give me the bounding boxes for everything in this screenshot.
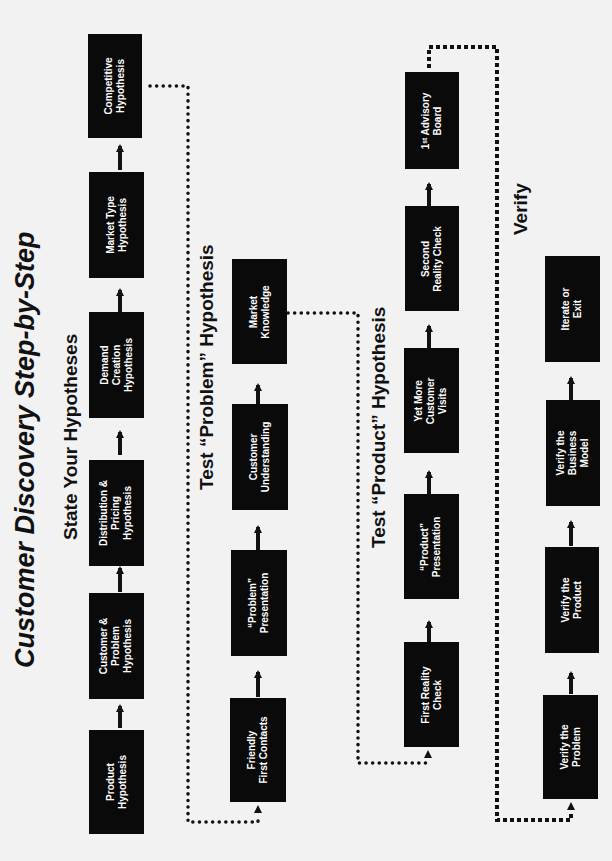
step-friendly-first-contacts: Friendly First Contacts: [230, 698, 286, 802]
step-yet-more-customer-visits: Yet More Customer Visits: [404, 348, 459, 453]
section-title-verify: Verify: [510, 183, 532, 235]
section-title-test-problem: Test “Problem” Hypothesis: [196, 244, 218, 490]
section-title-test-product: Test “Product” Hypothesis: [368, 307, 390, 548]
main-title: Customer Discovery Step-by-Step: [10, 231, 41, 668]
step-second-reality-check: Second Reality Check: [405, 206, 459, 311]
step-problem-presentation: “Problem” Presentation: [231, 550, 287, 656]
step-competitive-hypothesis: Competitive Hypothesis: [88, 34, 142, 138]
step-verify-business-model: Verify the Business Model: [546, 400, 600, 506]
section-title-state-hypotheses: State Your Hypotheses: [60, 334, 82, 540]
step-market-type-hypothesis: Market Type Hypothesis: [89, 172, 144, 278]
step-first-reality-check: First Reality Check: [404, 642, 459, 747]
step-customer-understanding: Customer Understanding: [232, 404, 288, 510]
step-verify-the-problem: Verify the Problem: [543, 695, 598, 799]
step-product-hypothesis: Product Hypothesis: [89, 730, 144, 834]
step-demand-creation-hypothesis: Demand Creation Hypothesis: [89, 312, 144, 418]
step-iterate-or-exit: Iterate or Exit: [545, 256, 600, 362]
step-product-presentation: “Product” Presentation: [404, 494, 459, 599]
step-distribution-pricing-hypothesis: Distribution & Pricing Hypothesis: [89, 460, 144, 566]
step-customer-problem-hypothesis: Customer & Problem Hypothesis: [89, 593, 144, 699]
step-market-knowledge: Market Knowledge: [232, 259, 287, 364]
step-first-advisory-board: 1ˢᵗ Advisory Board: [405, 72, 459, 169]
step-verify-the-product: Verify the Product: [545, 547, 599, 653]
